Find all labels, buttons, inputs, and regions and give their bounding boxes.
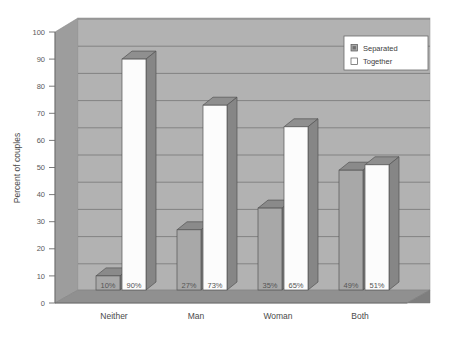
chart-legend: Separated Together — [344, 36, 428, 70]
y-tick-label: 20 — [37, 244, 45, 253]
bar-value-label: 27% — [181, 281, 196, 290]
bar-value-label: 51% — [369, 281, 384, 290]
bar-value-label: 65% — [288, 281, 303, 290]
bar-together-woman — [284, 119, 318, 290]
y-tick-label: 40 — [37, 190, 45, 199]
x-tick-label-man: Man — [188, 311, 205, 321]
bar-together-both — [365, 157, 399, 290]
y-tick-label: 10 — [37, 272, 45, 281]
bar-value-label: 49% — [343, 281, 358, 290]
bar-value-label: 90% — [126, 281, 141, 290]
bar-value-label: 10% — [100, 281, 115, 290]
bar-together-neither — [122, 51, 156, 290]
bar-value-label: 35% — [262, 281, 277, 290]
legend-swatch-together — [351, 58, 358, 65]
y-tick-label: 60 — [37, 136, 45, 145]
bar-chart: 0 10 20 30 40 50 60 70 80 90 100 Percent… — [0, 0, 452, 340]
y-tick-label: 0 — [41, 299, 45, 308]
y-tick-label: 80 — [37, 82, 45, 91]
y-tick-label: 30 — [37, 217, 45, 226]
x-tick-label-neither: Neither — [100, 311, 128, 321]
bar-together-man — [203, 97, 237, 290]
bar-group-both: 49% 51% — [339, 157, 399, 290]
y-axis-title: Percent of couples — [12, 133, 22, 203]
plot-left-wall — [55, 18, 78, 303]
x-tick-label-both: Both — [351, 311, 369, 321]
y-tick-label: 70 — [37, 109, 45, 118]
chart-svg: 0 10 20 30 40 50 60 70 80 90 100 Percent… — [0, 0, 452, 340]
legend-label-separated: Separated — [363, 44, 398, 53]
x-tick-label-woman: Woman — [263, 311, 292, 321]
legend-swatch-separated-fill — [353, 46, 356, 49]
legend-label-together: Together — [363, 57, 393, 66]
y-tick-label: 50 — [37, 163, 45, 172]
bar-value-label: 73% — [207, 281, 222, 290]
plot-floor — [55, 290, 430, 303]
y-tick-label: 90 — [37, 55, 45, 64]
y-tick-label: 100 — [32, 28, 45, 37]
